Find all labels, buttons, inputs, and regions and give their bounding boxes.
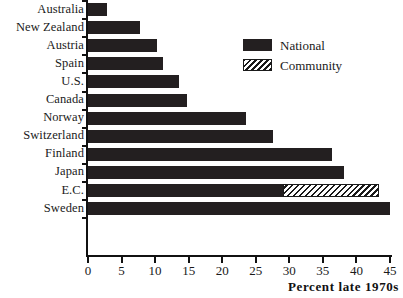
bar-segment-national: [88, 3, 107, 16]
x-axis-tick-label: 20: [209, 263, 235, 278]
bar-segment-community: [283, 184, 379, 197]
bar-segment-national: [88, 184, 283, 197]
bar-row: [88, 94, 400, 107]
x-axis-tick-label: 30: [276, 263, 302, 278]
x-axis-tick-label: 40: [343, 263, 369, 278]
x-axis-tick-label: 10: [142, 263, 168, 278]
bar-row: [88, 75, 400, 88]
bar-segment-national: [88, 130, 273, 143]
category-label-text: Japan: [0, 165, 84, 178]
y-axis-tick: [82, 217, 87, 219]
legend-item-label: Community: [280, 58, 342, 73]
category-label-text: Australia: [0, 3, 84, 16]
category-label-text: Austria: [0, 39, 84, 52]
bar-segment-national: [88, 112, 246, 125]
x-axis-tick-label: 5: [109, 263, 135, 278]
x-axis-tick-label: 0: [75, 263, 101, 278]
y-axis-tick: [82, 145, 87, 147]
category-label-text: U.S.: [0, 75, 84, 88]
bar-segment-national: [88, 148, 332, 161]
category-label-text: E.C.: [0, 184, 84, 197]
category-label-text: Spain: [0, 57, 84, 70]
category-label-text: New Zealand: [0, 21, 84, 34]
bar-row: [88, 148, 400, 161]
hatched-swatch: [243, 59, 272, 71]
bar-segment-national: [88, 202, 390, 215]
bar-row: [88, 184, 400, 197]
y-axis-tick: [82, 163, 87, 165]
category-label-text: Finland: [0, 147, 84, 160]
y-axis-tick: [82, 181, 87, 183]
bar-segment-national: [88, 57, 163, 70]
x-axis-tick-label: 45: [377, 263, 403, 278]
bar-chart: AustraliaNew ZealandAustriaSpainU.S.Cana…: [0, 0, 403, 298]
y-axis-tick: [82, 72, 87, 74]
y-axis-tick: [82, 127, 87, 129]
bar-segment-national: [88, 39, 157, 52]
bar-row: [88, 166, 400, 179]
bar-segment-national: [88, 75, 179, 88]
bar-row: [88, 21, 400, 34]
y-axis-tick: [82, 199, 87, 201]
category-label-text: Switzerland: [0, 129, 84, 142]
y-axis-tick: [82, 54, 87, 56]
legend-item-label: National: [280, 38, 325, 53]
y-axis-tick: [82, 0, 87, 2]
bar-segment-national: [88, 166, 344, 179]
bar-row: [88, 3, 400, 16]
bar-row: [88, 202, 400, 215]
bar-row: [88, 112, 400, 125]
x-axis-line: [86, 255, 392, 257]
category-label-text: Sweden: [0, 202, 84, 215]
bar-segment-national: [88, 94, 187, 107]
category-label-text: Canada: [0, 93, 84, 106]
category-label-text: Norway: [0, 111, 84, 124]
y-axis-tick: [82, 109, 87, 111]
y-axis-tick: [82, 36, 87, 38]
y-axis-tick: [82, 18, 87, 20]
bar-row: [88, 130, 400, 143]
x-axis-tick-label: 25: [243, 263, 269, 278]
y-axis-tick: [82, 91, 87, 93]
x-axis-tick-label: 15: [176, 263, 202, 278]
bar-segment-national: [88, 21, 140, 34]
x-axis-title: Percent late 1970s: [288, 279, 399, 295]
solid-dark-swatch: [243, 39, 272, 51]
x-axis-tick-label: 35: [310, 263, 336, 278]
